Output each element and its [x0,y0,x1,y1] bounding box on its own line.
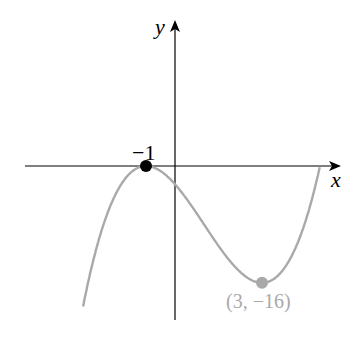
plot-area: −1(3, −16)xy [0,0,359,350]
x-axis-label: x [330,167,341,192]
chart: −1(3, −16)xy [0,0,359,350]
y-axis-label: y [153,14,165,39]
point-label-min-root: −1 [132,140,155,165]
point-marker-1 [256,277,268,289]
function-curve [83,166,320,306]
point-label-local-min: (3, −16) [226,290,291,313]
